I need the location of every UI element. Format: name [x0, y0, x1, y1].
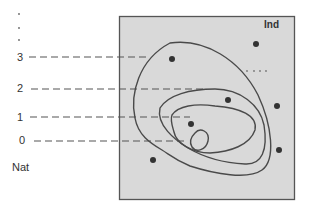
level-label-3: 3	[17, 51, 23, 63]
level-label-1: 1	[17, 111, 23, 123]
level-label-2: 2	[17, 82, 23, 94]
point	[150, 157, 156, 163]
level-label-0: 0	[19, 134, 25, 146]
point	[225, 97, 231, 103]
point	[169, 56, 175, 62]
point	[188, 121, 194, 127]
contour-diagram: 3 2 1 0 Nat Ind	[0, 0, 310, 211]
plot-panel	[120, 17, 295, 200]
continuation-dots	[18, 13, 20, 41]
axis-label-ind: Ind	[264, 19, 279, 30]
axis-label-nat: Nat	[12, 161, 29, 173]
point	[274, 103, 280, 109]
point	[276, 147, 282, 153]
point	[253, 41, 259, 47]
